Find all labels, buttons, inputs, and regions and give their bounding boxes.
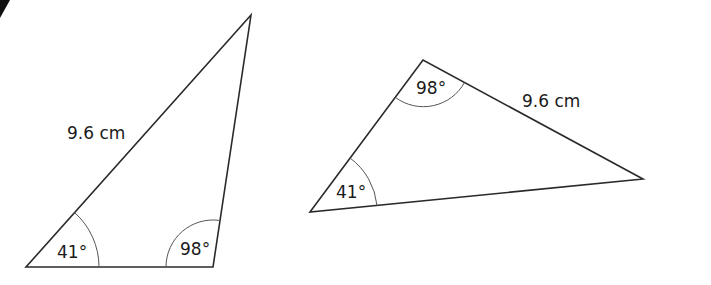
triangle-right: 41° 98° 9.6 cm	[310, 60, 643, 212]
triangle-left: 9.6 cm 41° 98°	[26, 15, 251, 267]
side-length-label-right: 9.6 cm	[522, 91, 580, 111]
angle-label-98-right: 98°	[416, 78, 446, 98]
angle-label-98-left: 98°	[180, 239, 210, 259]
diagram-canvas: 9.6 cm 41° 98° 41° 98° 9.6 cm	[0, 0, 711, 285]
angle-label-41-left: 41°	[57, 242, 87, 262]
angle-label-41-right: 41°	[336, 182, 366, 202]
triangle-left-outline	[26, 15, 251, 267]
side-length-label-left: 9.6 cm	[67, 123, 125, 143]
